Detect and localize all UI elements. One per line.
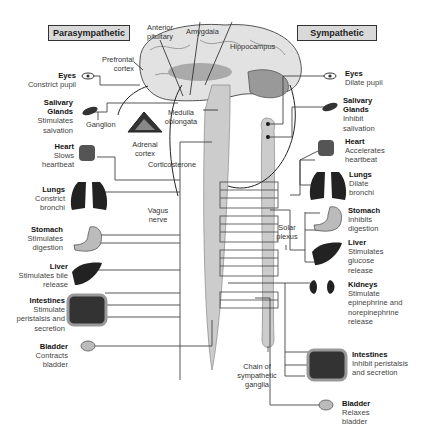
para-intestines-label: IntestinesStimulate peristalsis and secr… <box>10 296 65 333</box>
symp-lungs-label: LungsDilate bronchi <box>349 170 389 198</box>
vagus-nerve-label: Vagus nerve <box>142 206 174 224</box>
symp-heart-label: HeartAccelerates heartbeat <box>345 137 395 165</box>
medulla-oblongata-label: Medulla oblongata <box>160 108 202 126</box>
salivary-gland-icon <box>81 105 98 117</box>
kidneys-icon <box>310 280 335 294</box>
corticosterone-label: Corticosterone <box>148 160 196 169</box>
para-salivary-label: Salivary GlandsStimulates salvation <box>20 98 73 135</box>
para-heart-label: HeartSlows heartbeat <box>30 142 74 170</box>
symp-salivary-label: Salivary GlandsInhibit salivation <box>343 96 388 133</box>
parasympathetic-header: Parasympathetic <box>48 25 130 41</box>
stomach-icon <box>74 227 102 251</box>
amygdala-label: Amygdala <box>186 27 219 36</box>
prefrontal-cortex-label: Prefrontal cortex <box>96 55 134 73</box>
para-bladder-label: BladderContracts bladder <box>20 342 68 370</box>
symp-eyes-label: EyesDilate pupil <box>345 69 405 87</box>
intestines-icon <box>68 295 106 325</box>
heart-icon <box>318 140 334 156</box>
lungs-icon <box>71 182 107 210</box>
symp-kidneys-label: KidneysStimulate epinephrine and norepin… <box>348 280 403 326</box>
para-lungs-label: LungsConstrict bronchi <box>25 185 65 213</box>
liver-icon <box>312 243 342 265</box>
salivary-gland-icon <box>321 101 338 113</box>
spinal-cord-icon <box>204 85 230 370</box>
stomach-icon <box>314 207 342 231</box>
adrenal-cortex-label: Adrenal cortex <box>128 140 162 158</box>
para-eyes-label: EyesConstrict pupil <box>10 71 76 89</box>
bladder-icon <box>81 341 95 351</box>
symp-bladder-label: BladderRelaxes bladder <box>342 399 387 427</box>
para-stomach-label: StomachStimulates digestion <box>20 225 63 253</box>
symp-intestines-label: IntestinesInhibit peristalsis and secret… <box>352 350 414 378</box>
solar-plexus-label: Solar plexus <box>272 223 302 241</box>
heart-icon <box>79 145 95 161</box>
symp-stomach-label: StomachInhibits digestion <box>348 206 393 234</box>
ganglion-label: Ganglion <box>86 120 116 129</box>
symp-liver-label: LiverStimulates glucose release <box>348 238 393 275</box>
lungs-icon <box>310 172 346 200</box>
liver-icon <box>72 263 102 285</box>
sympathetic-header: Sympathetic <box>297 25 377 41</box>
chain-of-ganglia-label: Chain of sympathetic ganglia <box>232 362 282 389</box>
intestines-icon <box>308 350 346 380</box>
bladder-icon <box>319 400 333 410</box>
anterior-pituitary-label: Anterior pituitary <box>140 23 180 41</box>
hippocampus-label: Hippocampus <box>230 42 275 51</box>
para-liver-label: LiverStimulates bile release <box>18 262 68 290</box>
